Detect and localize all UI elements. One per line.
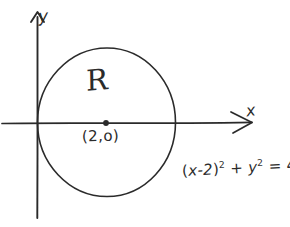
- y-axis-label: y: [37, 8, 48, 26]
- x-axis-line: [2, 122, 252, 123]
- equation-lhs-base: x-2: [188, 160, 214, 179]
- equation-plus: +: [225, 159, 249, 178]
- x-axis-label: x: [245, 102, 257, 119]
- center-point-dot: [103, 120, 109, 126]
- center-coordinate-label: (2,o): [82, 129, 120, 145]
- equation-equals: =: [263, 157, 287, 176]
- region-label-r: R: [86, 65, 108, 96]
- sketch-canvas: y x R (2,o) (x-2)2 + y2 = 4: [0, 0, 290, 227]
- equation-rhs: 4: [286, 156, 290, 174]
